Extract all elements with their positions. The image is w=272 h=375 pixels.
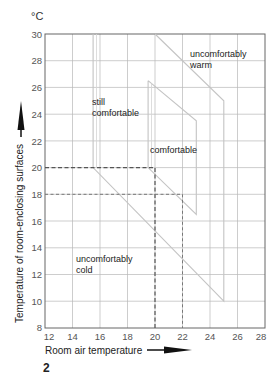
zone-label-cold-1: uncomfortably (76, 254, 133, 264)
svg-text:12: 12 (31, 269, 42, 280)
svg-text:24: 24 (31, 109, 42, 120)
zone-label-comfortable: comfortable (150, 145, 197, 155)
svg-text:16: 16 (95, 331, 106, 342)
y-axis-ticks: 30 28 26 24 22 20 18 16 14 12 10 8 (31, 29, 42, 334)
x-axis-label: Room air temperature (45, 345, 143, 356)
svg-text:28: 28 (31, 55, 42, 66)
svg-text:20: 20 (31, 162, 42, 173)
svg-text:30: 30 (31, 29, 42, 40)
x-axis-ticks: 12 14 16 18 20 22 24 26 28 (44, 331, 267, 342)
svg-text:14: 14 (31, 242, 42, 253)
svg-text:28: 28 (256, 331, 267, 342)
svg-text:26: 26 (31, 82, 42, 93)
x-axis-arrow-icon (147, 347, 192, 354)
svg-text:18: 18 (31, 189, 42, 200)
svg-text:16: 16 (31, 216, 42, 227)
svg-text:12: 12 (44, 331, 55, 342)
svg-text:14: 14 (67, 331, 78, 342)
svg-text:22: 22 (31, 136, 42, 147)
svg-text:26: 26 (232, 331, 243, 342)
svg-text:24: 24 (205, 331, 216, 342)
zone-label-warm-2: warm (189, 60, 212, 70)
zone-label-warm-1: uncomfortably (190, 49, 247, 59)
zone-label-cold-2: cold (76, 265, 93, 275)
unit-label: °C (31, 10, 43, 22)
comfort-chart: °C 30 28 26 24 22 20 18 (0, 0, 272, 375)
svg-text:8: 8 (37, 322, 42, 333)
svg-text:18: 18 (122, 331, 133, 342)
zone-label-still-1: still (92, 97, 105, 107)
zone-label-still-2: comfortable (92, 108, 139, 118)
y-axis-arrow-icon (18, 101, 25, 137)
y-axis-label: Temperature of room-enclosing surfaces (14, 144, 25, 323)
svg-text:20: 20 (150, 331, 161, 342)
grid (45, 34, 265, 328)
figure-number: 2 (43, 361, 50, 375)
svg-text:22: 22 (177, 331, 188, 342)
svg-text:10: 10 (31, 296, 42, 307)
